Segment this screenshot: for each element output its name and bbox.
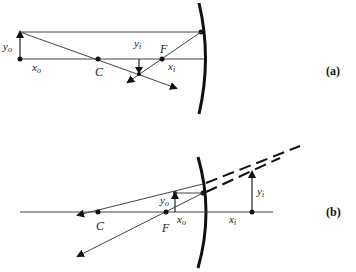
diagram-tag-b: (b) — [326, 205, 341, 219]
diagram-b: C F yo xo xi yi (b) — [20, 146, 341, 268]
label-xo-b: xo — [176, 213, 186, 227]
diagram-tag-a: (a) — [326, 64, 340, 78]
label-c-a: C — [95, 65, 104, 79]
virtual-ray-2 — [206, 158, 280, 192]
focal-point-a — [160, 57, 165, 62]
label-xi-a: xi — [167, 60, 175, 74]
object-arrowhead-a — [16, 30, 24, 38]
label-yo-a: yo — [2, 40, 12, 54]
label-xi-b: xi — [228, 213, 236, 227]
center-point-b — [96, 210, 101, 215]
label-c-b: C — [96, 219, 105, 233]
label-yo-b: yo — [159, 194, 169, 208]
center-point-a — [96, 57, 101, 62]
diagram-a: yo xo C yi F xi (a) — [2, 3, 340, 114]
label-yi-b: yi — [256, 185, 264, 199]
label-f-a: F — [159, 42, 168, 56]
label-f-b: F — [161, 221, 170, 235]
label-xo-a: xo — [31, 61, 41, 75]
label-yi-a: yi — [133, 37, 141, 51]
ray-diagrams: yo xo C yi F xi (a) C F yo xo xi — [0, 0, 356, 272]
focal-point-b — [164, 210, 169, 215]
